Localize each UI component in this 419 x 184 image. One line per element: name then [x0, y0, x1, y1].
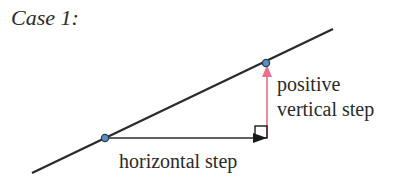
horizontal-label: horizontal step — [119, 150, 237, 173]
upper-point — [262, 59, 269, 66]
lower-point — [101, 134, 108, 141]
slope-diagram: Case 1: positive vertical step horizonta… — [0, 0, 419, 184]
vertical-label-line1: positive — [277, 73, 340, 96]
vertical-label-line2: vertical step — [277, 98, 374, 121]
case-title: Case 1: — [11, 5, 79, 30]
